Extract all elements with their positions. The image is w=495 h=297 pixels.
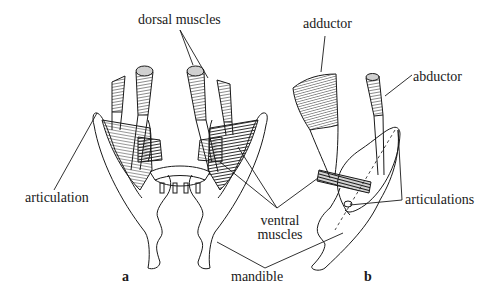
- diagram-canvas: dorsal muscles adductor abductor articul…: [0, 0, 495, 297]
- panel-label-b: b: [364, 270, 372, 284]
- label-ventral-muscles-line1: ventral: [255, 214, 305, 228]
- label-dorsal-muscles: dorsal muscles: [138, 13, 221, 27]
- label-abductor: abductor: [413, 70, 462, 84]
- label-articulations: articulations: [405, 193, 474, 207]
- label-adductor: adductor: [303, 17, 352, 31]
- panel-b-drawing: [293, 74, 400, 271]
- label-ventral-muscles-line2: muscles: [253, 228, 307, 242]
- label-articulation: articulation: [25, 191, 89, 205]
- label-mandible: mandible: [231, 270, 283, 284]
- mandible-illustration: [0, 0, 495, 297]
- panel-label-a: a: [122, 270, 129, 284]
